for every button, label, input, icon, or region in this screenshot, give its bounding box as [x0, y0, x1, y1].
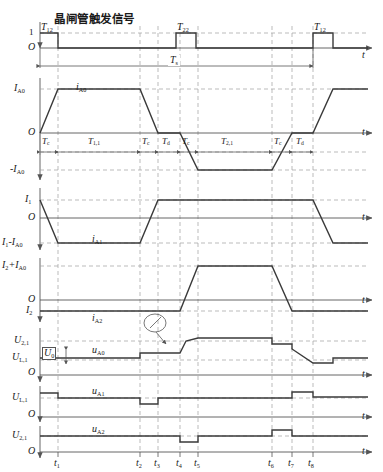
ua0-origin-label: O — [28, 367, 35, 377]
ia2-ylabel-bottom: I2 — [26, 305, 32, 316]
interval-label-tc-3: Tc — [182, 137, 190, 147]
u0-annotation-label: U0 — [42, 347, 56, 360]
interval-label-t11: T1,1 — [88, 137, 100, 147]
axis-label-t-panel3: t — [362, 212, 365, 222]
signal-label-ua2: uA2 — [92, 424, 105, 435]
trigger-origin-label: O — [28, 42, 35, 52]
waveform-ia0 — [40, 89, 368, 170]
panel-ua0 — [40, 314, 372, 382]
figure-title: 晶闸管触发信号 — [54, 14, 135, 26]
panel-ia1 — [40, 188, 372, 250]
interval-label-t21: T2,1 — [221, 137, 233, 147]
waveform-ua2 — [40, 430, 368, 442]
ua0-ylabel-mid: UL,1 — [12, 352, 28, 363]
ia2-ylabel-top: I2+IA0 — [2, 260, 26, 271]
signal-label-ua0: uA0 — [92, 345, 105, 356]
time-marker-t8: t8 — [308, 458, 314, 469]
waveform-ua0 — [40, 338, 368, 363]
interval-label-tc-4: Tc — [274, 137, 282, 147]
axis-label-t-panel5: t — [362, 369, 365, 379]
time-marker-t5: t5 — [194, 458, 200, 469]
waveform-ua1 — [40, 392, 368, 404]
axis-label-t-panel1: t — [362, 50, 365, 60]
signal-label-ia2: iA2 — [92, 313, 102, 324]
pulse-label-t12-first: T12 — [41, 22, 53, 33]
interval-label-td-1: Td — [162, 137, 170, 147]
panel-ua2 — [40, 426, 372, 458]
ia0-ylabel-bottom: -IA0 — [10, 164, 24, 175]
ia1-ylabel-bottom: I1-IA0 — [2, 237, 23, 248]
waveform-ia1 — [40, 200, 368, 243]
signal-label-ua1: uA1 — [92, 386, 105, 397]
axis-label-t-panel6: t — [362, 411, 365, 421]
time-marker-t3: t3 — [154, 458, 160, 469]
signal-label-ia0: iA0 — [76, 82, 86, 93]
axis-label-t-panel4: t — [362, 295, 365, 305]
pulse-label-t22: T22 — [177, 22, 189, 33]
time-marker-t4: t4 — [176, 458, 182, 469]
signal-label-ia1: iA1 — [92, 234, 102, 245]
span-label-ts: Ts — [168, 55, 180, 66]
pulse-label-t12-second: T12 — [314, 22, 326, 33]
ua1-origin-label: O — [28, 409, 35, 419]
interval-label-td-2: Td — [296, 137, 304, 147]
waveform-trigger — [40, 33, 368, 48]
time-marker-t1: t1 — [54, 458, 60, 469]
time-marker-t7: t7 — [288, 458, 294, 469]
ua1-ylabel-top: UL,1 — [12, 392, 28, 403]
interval-label-tc-2: Tc — [142, 137, 150, 147]
timing-diagram-figure — [0, 0, 383, 472]
circled-detail-marker — [144, 314, 166, 344]
time-ticks — [58, 452, 313, 457]
ia1-origin-label: O — [28, 212, 35, 222]
axis-label-t-panel2: t — [362, 127, 365, 137]
ua2-origin-label: O — [28, 446, 35, 456]
ia0-ylabel-top: IA0 — [14, 83, 25, 94]
ia1-ylabel-top: I1 — [25, 194, 31, 205]
time-marker-t6: t6 — [268, 458, 274, 469]
axis-label-t-panel7: t — [362, 446, 365, 456]
waveform-ia2 — [40, 266, 368, 311]
ua0-ylabel-top: U2,1 — [14, 335, 29, 346]
ia2-origin-label: O — [28, 294, 35, 304]
time-marker-t2: t2 — [136, 458, 142, 469]
ua2-ylabel-top: U2,1 — [12, 430, 27, 441]
panel-ua1 — [40, 386, 372, 422]
panel-ia2 — [40, 258, 372, 322]
panel-ia0 — [40, 78, 372, 180]
interval-label-tc-1: Tc — [42, 137, 50, 147]
ia0-origin-label: O — [28, 127, 35, 137]
trigger-level-1-label: 1 — [29, 28, 34, 37]
